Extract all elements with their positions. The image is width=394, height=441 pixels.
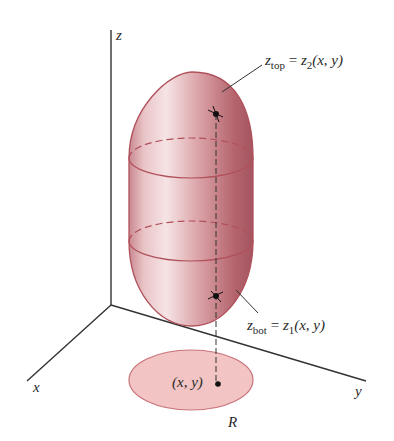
- x-axis-label: x: [32, 379, 40, 395]
- diagram-canvas: z x y ztop = z2(x, y) zbot = z1(x, y) (x…: [0, 0, 394, 441]
- z-top-annotation: ztop = z2(x, y): [264, 52, 343, 71]
- capsule-solid: [129, 72, 253, 326]
- region-label: R: [227, 414, 237, 430]
- point-label: (x, y): [172, 374, 203, 391]
- bottom-leader-line: [236, 290, 258, 313]
- z-bot-annotation: zbot = z1(x, y): [246, 317, 325, 336]
- x-axis: [27, 305, 111, 381]
- top-leader-line: [222, 65, 262, 92]
- y-axis-label: y: [353, 383, 362, 399]
- region-point: [215, 381, 221, 387]
- z-axis-label: z: [115, 27, 122, 43]
